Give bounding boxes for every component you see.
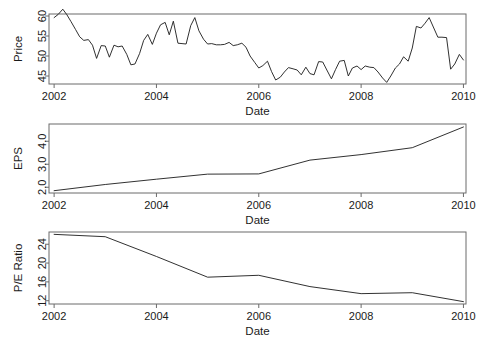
eps-series-line (54, 127, 463, 191)
pe-ratio-ytick-label: 20 (36, 257, 48, 269)
eps-xtick-label: 2004 (144, 199, 168, 211)
eps-panel: 2.03.04.020022004200620082010DateEPS (0, 112, 482, 230)
eps-ytick-label: 2.0 (36, 180, 48, 195)
price-yaxis-label: Price (12, 36, 24, 62)
eps-plot-box (49, 124, 466, 193)
pe-ratio-xtick-label: 2008 (349, 310, 373, 322)
pe-ratio-ytick-label: 12 (36, 295, 48, 307)
price-panel: 4550556020022004200620082010DatePrice (0, 0, 482, 118)
price-xtick-label: 2002 (42, 90, 66, 102)
eps-xtick-label: 2002 (42, 199, 66, 211)
eps-xtick-label: 2006 (247, 199, 271, 211)
price-xtick-label: 2008 (349, 90, 373, 102)
stock-metrics-figure: 4550556020022004200620082010DatePrice 2.… (0, 0, 482, 350)
pe-ratio-ytick-label: 16 (36, 276, 48, 288)
eps-xtick-label: 2010 (451, 199, 475, 211)
price-ytick-label: 50 (36, 50, 48, 62)
pe-ratio-xaxis-label: Date (245, 325, 269, 337)
pe-ratio-yaxis-label: P/E Ratio (12, 244, 24, 293)
pe-ratio-series-line (54, 234, 463, 301)
pe-ratio-xtick-label: 2002 (42, 310, 66, 322)
pe-ratio-plot: 1216202420022004200620082010DateP/E Rati… (0, 226, 482, 350)
price-ytick-label: 45 (36, 70, 48, 82)
price-plot: 4550556020022004200620082010DatePrice (0, 0, 482, 118)
pe-ratio-xtick-label: 2010 (451, 310, 475, 322)
price-xtick-label: 2006 (247, 90, 271, 102)
eps-ytick-label: 3.0 (36, 157, 48, 172)
pe-ratio-xtick-label: 2004 (144, 310, 168, 322)
pe-ratio-ytick-label: 24 (36, 238, 48, 250)
eps-yaxis-label: EPS (12, 147, 24, 170)
price-series-line (54, 9, 463, 82)
price-ytick-label: 55 (36, 30, 48, 42)
pe-ratio-panel: 1216202420022004200620082010DateP/E Rati… (0, 226, 482, 350)
pe-ratio-xtick-label: 2006 (247, 310, 271, 322)
eps-plot: 2.03.04.020022004200620082010DateEPS (0, 112, 482, 230)
eps-xaxis-label: Date (245, 214, 269, 226)
eps-xtick-label: 2008 (349, 199, 373, 211)
eps-ytick-label: 4.0 (36, 134, 48, 149)
price-xtick-label: 2010 (451, 90, 475, 102)
price-plot-box (49, 14, 466, 84)
price-xtick-label: 2004 (144, 90, 168, 102)
price-ytick-label: 60 (36, 10, 48, 22)
